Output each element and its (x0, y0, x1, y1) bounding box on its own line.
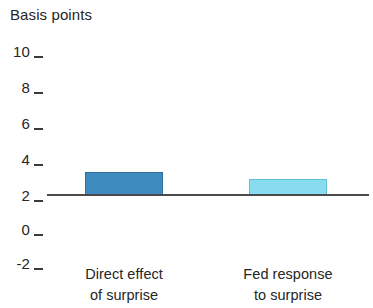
x-axis-label-line: Direct effect (49, 264, 199, 285)
y-axis-tick-dash-icon (34, 268, 43, 270)
y-axis-tick: 10 (0, 43, 46, 61)
bar-direct-effect-of-surprise (85, 172, 163, 196)
y-axis-tick: -2 (0, 255, 46, 273)
y-axis-tick-label: 0 (22, 221, 30, 239)
y-axis-tick: 8 (0, 79, 46, 97)
y-axis-tick-dash-icon (34, 200, 43, 202)
y-axis-tick-label: 8 (22, 79, 30, 97)
x-axis-label-line: of surprise (49, 285, 199, 306)
y-axis-tick: 0 (0, 221, 46, 239)
y-axis-tick-label: 6 (22, 115, 30, 133)
x-axis-category-labels: Direct effect of surprise Fed response t… (46, 264, 369, 308)
x-axis-label-direct-effect: Direct effect of surprise (49, 264, 199, 306)
y-axis-tick-dash-icon (34, 92, 43, 94)
x-axis-label-fed-response: Fed response to surprise (213, 264, 363, 306)
y-axis: 10 8 6 4 2 0 -2 (0, 0, 46, 308)
y-axis-tick-dash-icon (34, 56, 43, 58)
y-axis-tick-dash-icon (34, 128, 43, 130)
y-axis-tick-dash-icon (34, 164, 43, 166)
zero-baseline (47, 194, 369, 196)
y-axis-tick-dash-icon (34, 234, 43, 236)
plot-area (46, 24, 369, 230)
y-axis-tick-label: 4 (22, 151, 30, 169)
y-axis-tick-label: 10 (13, 43, 30, 61)
y-axis-tick: 4 (0, 151, 46, 169)
x-axis-label-line: Fed response (213, 264, 363, 285)
y-axis-tick: 6 (0, 115, 46, 133)
x-axis-label-line: to surprise (213, 285, 363, 306)
bar-chart: Basis points 10 8 6 4 2 0 -2 (0, 0, 373, 308)
y-axis-tick-label: 2 (22, 187, 30, 205)
y-axis-tick-label: -2 (16, 255, 30, 273)
y-axis-tick: 2 (0, 187, 46, 205)
